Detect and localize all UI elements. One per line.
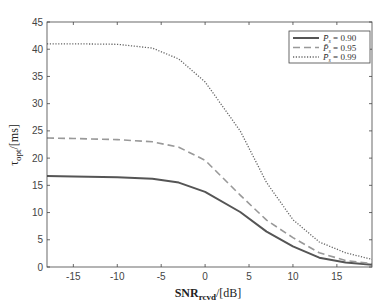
x-axis-label: SNRrcvd/[dB] bbox=[175, 286, 242, 302]
y-axis-label: τopt/[ms] bbox=[7, 124, 23, 166]
x-tick-label: -10 bbox=[110, 271, 125, 282]
y-tick-label: 35 bbox=[32, 71, 44, 82]
y-tick-label: 0 bbox=[37, 262, 43, 273]
series-line-dotted bbox=[47, 44, 372, 260]
y-tick-label: 25 bbox=[32, 125, 44, 136]
x-tick-label: 5 bbox=[246, 271, 252, 282]
x-tick-label: -15 bbox=[66, 271, 81, 282]
series-line-dashed bbox=[47, 138, 372, 264]
x-tick-label: 0 bbox=[202, 271, 208, 282]
x-tick-label: -5 bbox=[157, 271, 166, 282]
x-tick-label: 10 bbox=[287, 271, 299, 282]
x-tick-label: 15 bbox=[331, 271, 343, 282]
y-tick-label: 20 bbox=[32, 153, 44, 164]
line-chart: -15-10-5051015051015202530354045 P̄s = 0… bbox=[0, 0, 389, 307]
legend: P̄s = 0.90P̄s = 0.95P̄s = 0.99 bbox=[289, 31, 370, 63]
series-line-solid bbox=[47, 176, 372, 265]
y-tick-label: 15 bbox=[32, 180, 44, 191]
y-tick-label: 5 bbox=[37, 234, 43, 245]
legend-entry-label: P̄s = 0.99 bbox=[322, 52, 357, 63]
y-tick-label: 10 bbox=[32, 207, 44, 218]
y-tick-label: 40 bbox=[32, 44, 44, 55]
y-tick-label: 30 bbox=[32, 98, 44, 109]
y-tick-label: 45 bbox=[32, 17, 44, 28]
series-layer bbox=[47, 44, 372, 265]
